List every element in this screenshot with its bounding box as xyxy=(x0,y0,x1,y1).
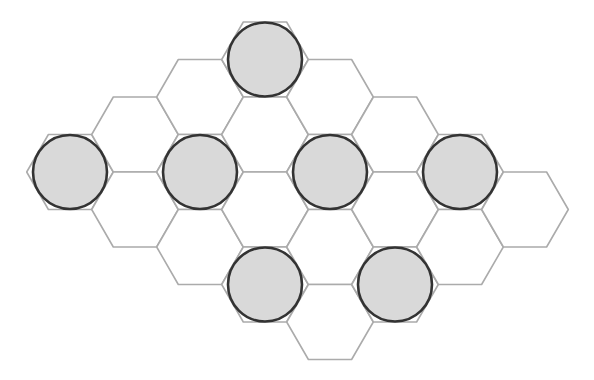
disc-token xyxy=(33,135,107,209)
hex-grid-diagram xyxy=(0,0,594,380)
disc-token xyxy=(228,248,302,322)
disc-token xyxy=(423,135,497,209)
disc-token xyxy=(358,248,432,322)
disc-token xyxy=(228,23,302,97)
disc-token xyxy=(163,135,237,209)
disc-token xyxy=(293,135,367,209)
